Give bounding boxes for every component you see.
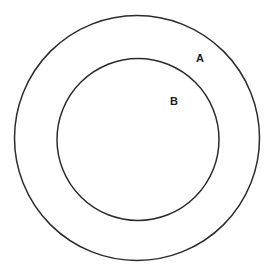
venn-diagram-canvas (0, 0, 278, 280)
set-diagram: A B (0, 0, 278, 280)
inner-set-circle-b (57, 59, 219, 221)
set-label-b: B (170, 96, 178, 107)
set-label-a: A (196, 53, 204, 64)
